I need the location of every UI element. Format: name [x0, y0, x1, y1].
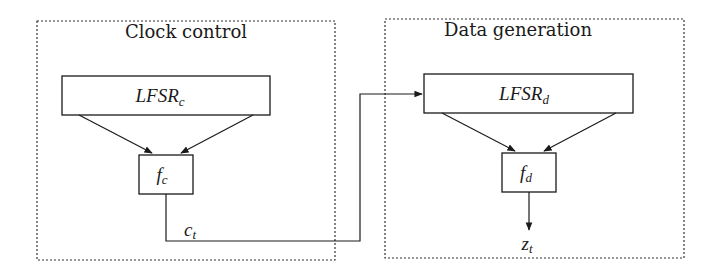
lfsr-c-block: LFSRc	[62, 76, 270, 115]
lfsr-d-block: LFSRd	[424, 74, 633, 113]
lfsr-c-to-fc-arrow-right	[181, 115, 253, 153]
data-generation-title: Data generation	[444, 19, 592, 40]
data-generation-group: Data generation LFSRd fd zt	[385, 19, 684, 258]
fd-subscript: d	[525, 170, 532, 185]
lfsr-c-to-fc-arrow-left	[79, 115, 152, 153]
svg-text:zt: zt	[520, 233, 532, 256]
fd-block: fd	[502, 153, 556, 192]
fc-subscript: c	[162, 172, 168, 187]
zt-subscript: t	[529, 241, 533, 256]
svg-text:ct: ct	[184, 219, 196, 242]
ct-subscript: t	[192, 227, 196, 242]
ct-clock-signal-line	[166, 94, 422, 241]
lfsr-c-subscript: c	[179, 94, 185, 109]
keystream-generator-diagram: Clock control LFSRc fc Data generation L…	[0, 0, 718, 277]
lfsr-d-to-fd-arrow-right	[544, 113, 616, 151]
svg-text:LFSRc: LFSRc	[134, 85, 184, 109]
clock-control-title: Clock control	[125, 21, 247, 42]
svg-text:LFSRd: LFSRd	[498, 83, 549, 107]
lfsr-d-subscript: d	[542, 92, 549, 107]
fc-block: fc	[139, 155, 193, 194]
lfsr-d-label: LFSR	[498, 83, 543, 104]
data-generation-border	[385, 19, 684, 258]
lfsr-c-label: LFSR	[134, 85, 179, 106]
lfsr-d-to-fd-arrow-left	[442, 113, 515, 151]
